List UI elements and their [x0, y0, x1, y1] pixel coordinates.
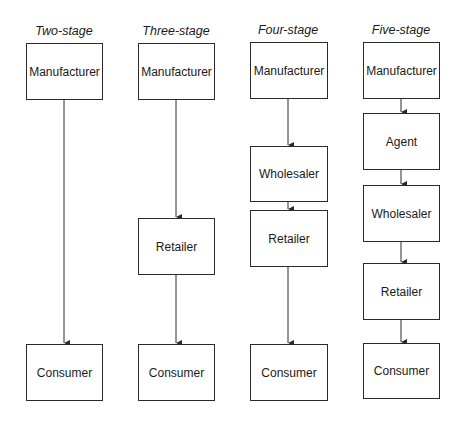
- node-manufacturer: Manufacturer: [363, 42, 440, 99]
- node-manufacturer: Manufacturer: [250, 42, 328, 99]
- node-label: Manufacturer: [29, 65, 100, 79]
- node-wholesaler: Wholesaler: [250, 146, 328, 202]
- node-consumer: Consumer: [363, 343, 440, 399]
- node-label: Manufacturer: [254, 64, 325, 78]
- node-retailer: Retailer: [363, 263, 440, 320]
- node-label: Retailer: [381, 285, 422, 299]
- node-retailer: Retailer: [138, 218, 215, 275]
- node-consumer: Consumer: [138, 344, 215, 401]
- node-wholesaler: Wholesaler: [363, 185, 440, 242]
- node-manufacturer: Manufacturer: [26, 43, 103, 100]
- node-consumer: Consumer: [26, 344, 103, 401]
- node-retailer: Retailer: [250, 210, 328, 267]
- node-label: Agent: [386, 135, 417, 149]
- node-label: Consumer: [37, 366, 92, 380]
- node-consumer: Consumer: [250, 344, 328, 401]
- node-manufacturer: Manufacturer: [138, 43, 215, 100]
- node-label: Retailer: [156, 240, 197, 254]
- node-label: Wholesaler: [371, 207, 431, 221]
- node-label: Wholesaler: [259, 167, 319, 181]
- node-agent: Agent: [363, 113, 440, 170]
- node-label: Retailer: [268, 232, 309, 246]
- node-label: Manufacturer: [141, 65, 212, 79]
- node-label: Manufacturer: [366, 64, 437, 78]
- node-label: Consumer: [374, 364, 429, 378]
- node-label: Consumer: [261, 366, 316, 380]
- node-label: Consumer: [149, 366, 204, 380]
